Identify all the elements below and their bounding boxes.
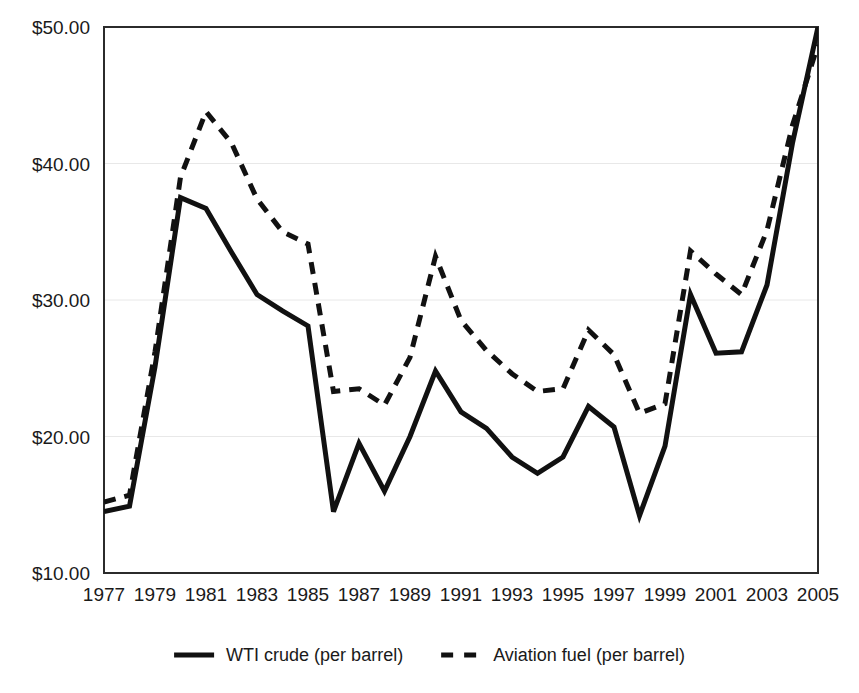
x-tick-label-1981: 1981 [185, 584, 227, 605]
gridlines-group [104, 164, 818, 437]
y-axis-tick-labels: $50.00$40.00$30.00$20.00$10.00 [32, 17, 90, 584]
y-tick-label-30: $30.00 [32, 290, 90, 311]
series-line-aviation-fuel [104, 45, 818, 502]
y-tick-label-40: $40.00 [32, 154, 90, 175]
x-tick-label-1985: 1985 [287, 584, 329, 605]
chart-legend: WTI crude (per barrel)Aviation fuel (per… [174, 645, 685, 665]
x-tick-label-1977: 1977 [83, 584, 125, 605]
x-tick-label-1995: 1995 [542, 584, 584, 605]
x-tick-label-1999: 1999 [644, 584, 686, 605]
x-tick-label-1989: 1989 [389, 584, 431, 605]
x-tick-label-1987: 1987 [338, 584, 380, 605]
data-series-group [104, 27, 818, 516]
series-line-wti-crude [104, 27, 818, 516]
x-tick-label-1991: 1991 [440, 584, 482, 605]
legend-label-wti-crude: WTI crude (per barrel) [226, 645, 403, 665]
legend-label-aviation-fuel: Aviation fuel (per barrel) [493, 645, 685, 665]
x-tick-label-2003: 2003 [746, 584, 788, 605]
x-tick-label-2001: 2001 [695, 584, 737, 605]
x-tick-label-2005: 2005 [797, 584, 839, 605]
chart-canvas: $50.00$40.00$30.00$20.00$10.00 197719791… [0, 0, 859, 693]
price-comparison-line-chart: $50.00$40.00$30.00$20.00$10.00 197719791… [0, 0, 859, 693]
x-tick-label-1979: 1979 [134, 584, 176, 605]
x-axis-tick-labels: 1977197919811983198519871989199119931995… [83, 584, 839, 605]
x-tick-label-1997: 1997 [593, 584, 635, 605]
y-tick-label-50: $50.00 [32, 17, 90, 38]
y-tick-label-10: $10.00 [32, 563, 90, 584]
x-tick-label-1983: 1983 [236, 584, 278, 605]
x-tick-label-1993: 1993 [491, 584, 533, 605]
y-tick-label-20: $20.00 [32, 427, 90, 448]
